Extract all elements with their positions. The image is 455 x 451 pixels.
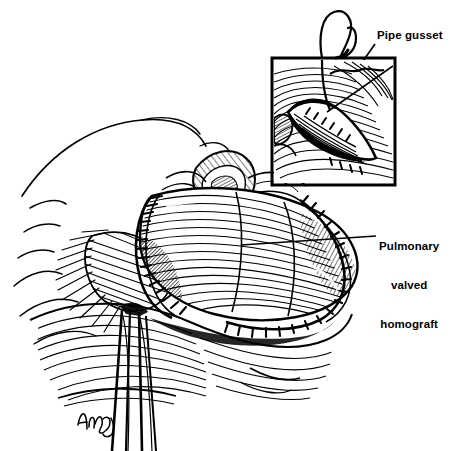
pipe-gusset-detail-inset [272,58,395,185]
label-pipe-gusset: Pipe gusset [377,29,443,42]
label-homograft-line-2: valved [379,279,439,292]
label-homograft-line-3: homograft [379,318,439,331]
medical-illustration-figure: Pipe gusset Pulmonary valved homograft [0,0,455,451]
label-homograft-line-1: Pulmonary [379,240,439,253]
label-pulmonary-valved-homograft: Pulmonary valved homograft [379,214,439,357]
